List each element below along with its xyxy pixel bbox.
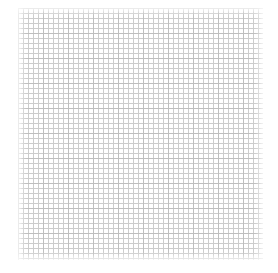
grid-paper	[18, 8, 263, 260]
